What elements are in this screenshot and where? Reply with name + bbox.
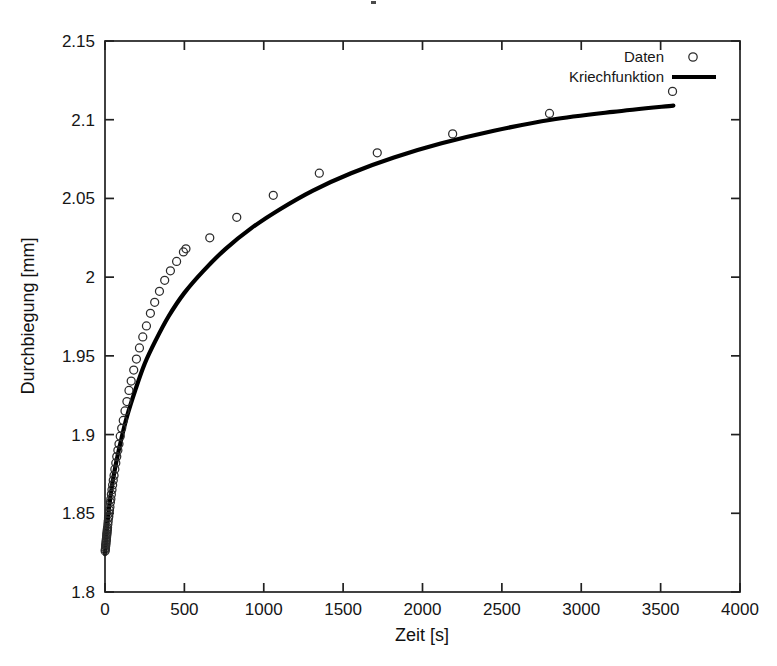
y-axis-tick-labels: 1.81.851.91.9522.052.12.15 <box>62 32 95 602</box>
data-point-marker <box>142 322 150 330</box>
data-point-marker <box>206 234 214 242</box>
data-point-marker <box>135 344 143 352</box>
x-tick-label: 1500 <box>324 600 362 619</box>
data-point-marker <box>546 109 554 117</box>
data-point-marker <box>146 309 154 317</box>
x-tick-label: 0 <box>100 600 109 619</box>
x-tick-label: 1000 <box>245 600 283 619</box>
x-tick-label: 4000 <box>721 600 759 619</box>
y-tick-label: 2 <box>86 268 95 287</box>
data-point-marker <box>166 267 174 275</box>
y-tick-label: 1.8 <box>71 583 95 602</box>
legend-marker-open-circle <box>689 53 697 61</box>
y-axis-ticks <box>105 41 740 592</box>
x-axis-tick-labels: 05001000150020002500300035004000 <box>100 600 759 619</box>
scan-artifact <box>371 1 376 4</box>
chart-legend: Daten Kriechfunktion <box>569 48 716 85</box>
data-point-marker <box>373 149 381 157</box>
data-point-marker <box>161 276 169 284</box>
x-tick-label: 500 <box>170 600 198 619</box>
x-axis-title: Zeit [s] <box>395 625 449 645</box>
legend-label-daten: Daten <box>624 48 664 65</box>
kriechfunktion-curve <box>105 106 673 555</box>
data-point-marker <box>125 386 133 394</box>
data-point-marker <box>151 298 159 306</box>
data-point-marker <box>233 213 241 221</box>
y-tick-label: 2.15 <box>62 32 95 51</box>
plot-frame <box>105 41 740 592</box>
data-point-marker <box>132 355 140 363</box>
data-point-marker <box>130 366 138 374</box>
y-tick-label: 1.9 <box>71 426 95 445</box>
legend-label-kriechfunktion: Kriechfunktion <box>569 68 664 85</box>
data-point-marker <box>269 191 277 199</box>
data-point-marker <box>155 287 163 295</box>
data-point-marker <box>315 169 323 177</box>
y-tick-label: 2.05 <box>62 189 95 208</box>
chart-canvas: 05001000150020002500300035004000 1.81.85… <box>0 0 777 666</box>
x-tick-label: 2500 <box>483 600 521 619</box>
data-point-marker <box>127 377 135 385</box>
y-axis-title: Durchbiegung [mm] <box>18 237 38 394</box>
y-tick-label: 1.95 <box>62 347 95 366</box>
y-tick-label: 2.1 <box>71 111 95 130</box>
x-tick-label: 2000 <box>404 600 442 619</box>
x-tick-label: 3000 <box>562 600 600 619</box>
data-point-marker <box>449 130 457 138</box>
data-point-marker <box>669 87 677 95</box>
data-point-marker <box>173 257 181 265</box>
x-axis-ticks <box>105 41 740 592</box>
chart-figure: 05001000150020002500300035004000 1.81.85… <box>0 0 777 666</box>
y-tick-label: 1.85 <box>62 504 95 523</box>
x-tick-label: 3500 <box>642 600 680 619</box>
data-point-marker <box>139 333 147 341</box>
